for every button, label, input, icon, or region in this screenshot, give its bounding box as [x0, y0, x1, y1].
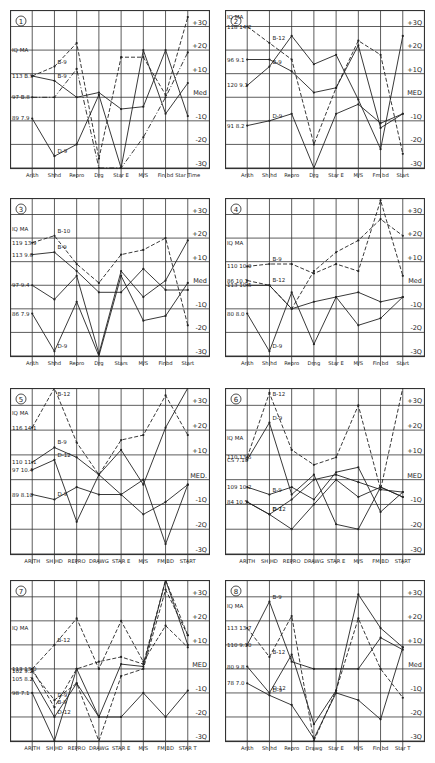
data-point: [313, 474, 315, 476]
data-point: [379, 122, 381, 124]
y-tick-label: +3Q: [192, 19, 207, 27]
data-point: [187, 646, 189, 648]
data-point: [31, 668, 33, 670]
data-point: [53, 350, 55, 352]
series-label: D-9: [272, 687, 282, 693]
x-category-label: DRAWG: [89, 558, 109, 564]
data-point: [402, 496, 404, 498]
y-tick-label: +2Q: [192, 422, 207, 430]
y-tick-label: -3Q: [195, 160, 207, 168]
data-point: [379, 511, 381, 513]
data-point: [335, 456, 337, 458]
y-tick-label: +1Q: [407, 447, 422, 455]
data-point: [187, 644, 189, 646]
x-category-label: M/S: [354, 172, 364, 178]
data-point: [187, 434, 189, 436]
data-point: [402, 35, 404, 37]
x-category-label: Arith: [241, 745, 253, 751]
data-point: [120, 270, 122, 272]
panel-number: 3: [19, 206, 23, 214]
data-point: [76, 486, 78, 488]
data-point: [142, 484, 144, 486]
data-point: [291, 449, 293, 451]
data-point: [164, 113, 166, 115]
data-point: [98, 94, 100, 96]
data-point: [142, 513, 144, 515]
data-point: [98, 291, 100, 293]
y-tick-label: -1Q: [410, 496, 422, 504]
data-point: [268, 350, 270, 352]
data-point: [120, 656, 122, 658]
data-point: [53, 251, 55, 253]
data-point: [291, 498, 293, 500]
series-label: D-9: [57, 491, 67, 497]
x-category-label: ARITH: [24, 745, 40, 751]
data-point: [53, 699, 55, 701]
left-axis-label: 120 9.1: [227, 82, 248, 88]
data-point: [31, 670, 33, 672]
x-category-label: SH HD: [46, 558, 63, 564]
y-tick-label: +2Q: [407, 613, 422, 621]
data-point: [313, 464, 315, 466]
y-tick-label: -3Q: [195, 348, 207, 356]
x-category-label: Star E: [113, 172, 129, 178]
left-axis-label: IQ MA: [227, 435, 243, 441]
data-point: [379, 148, 381, 150]
data-point: [402, 697, 404, 699]
data-point: [120, 675, 122, 677]
data-point: [142, 268, 144, 270]
data-point: [142, 665, 144, 667]
data-point: [291, 661, 293, 663]
y-tick-label: -2Q: [195, 709, 207, 717]
data-point: [31, 677, 33, 679]
x-category-label: Arith: [241, 172, 253, 178]
profile-chart-panel-3: +3Q+2Q+1QMed-1Q-2Q-3Q3IQ MA119 13.9113 9…: [10, 198, 210, 370]
y-tick-label: +2Q: [407, 422, 422, 430]
data-point: [379, 301, 381, 303]
data-point: [164, 716, 166, 718]
profile-chart-figure: +3Q+2Q+1QMed-1Q-2Q-3Q1IQ MA113 B.997 B.8…: [0, 0, 435, 763]
data-point: [98, 668, 100, 670]
data-point: [357, 99, 359, 101]
data-point: [98, 661, 100, 663]
data-point: [164, 589, 166, 591]
data-point: [335, 689, 337, 691]
data-point: [120, 253, 122, 255]
x-category-label: M/S: [139, 558, 149, 564]
y-tick-label: +3Q: [192, 397, 207, 405]
panel-number: 1: [19, 18, 23, 26]
y-tick-label: +2Q: [407, 42, 422, 50]
x-category-label: DRAWG: [89, 745, 109, 751]
data-point: [142, 249, 144, 251]
y-tick-label: -1Q: [195, 685, 207, 693]
series-label: B-10: [57, 228, 70, 234]
left-axis-label: IQ MA: [12, 410, 28, 416]
series-label: B-9: [57, 59, 67, 65]
data-point: [142, 434, 144, 436]
y-tick-label: -2Q: [195, 521, 207, 529]
series-label: B-12: [57, 391, 70, 397]
data-point: [268, 263, 270, 265]
x-category-label: Fm bd: [372, 172, 388, 178]
panel-number: 7: [19, 588, 23, 596]
x-category-label: FM BD: [157, 558, 174, 564]
data-point: [335, 692, 337, 694]
data-point: [76, 682, 78, 684]
data-point: [291, 528, 293, 530]
data-point: [98, 157, 100, 159]
y-tick-label: -1Q: [195, 301, 207, 309]
x-category-label: Repro: [284, 172, 299, 179]
x-category-label: Arith: [26, 360, 38, 366]
x-category-label: REPRO: [283, 558, 301, 564]
y-tick-label: Med: [193, 89, 207, 97]
x-category-label: START: [180, 558, 197, 564]
data-point: [268, 694, 270, 696]
left-axis-label: 97 B.8: [12, 94, 30, 100]
data-point: [31, 75, 33, 77]
data-point: [313, 498, 315, 500]
y-tick-label: +1Q: [192, 66, 207, 74]
data-point: [313, 737, 315, 739]
data-point: [31, 312, 33, 314]
y-tick-label: +1Q: [407, 637, 422, 645]
data-point: [142, 106, 144, 108]
